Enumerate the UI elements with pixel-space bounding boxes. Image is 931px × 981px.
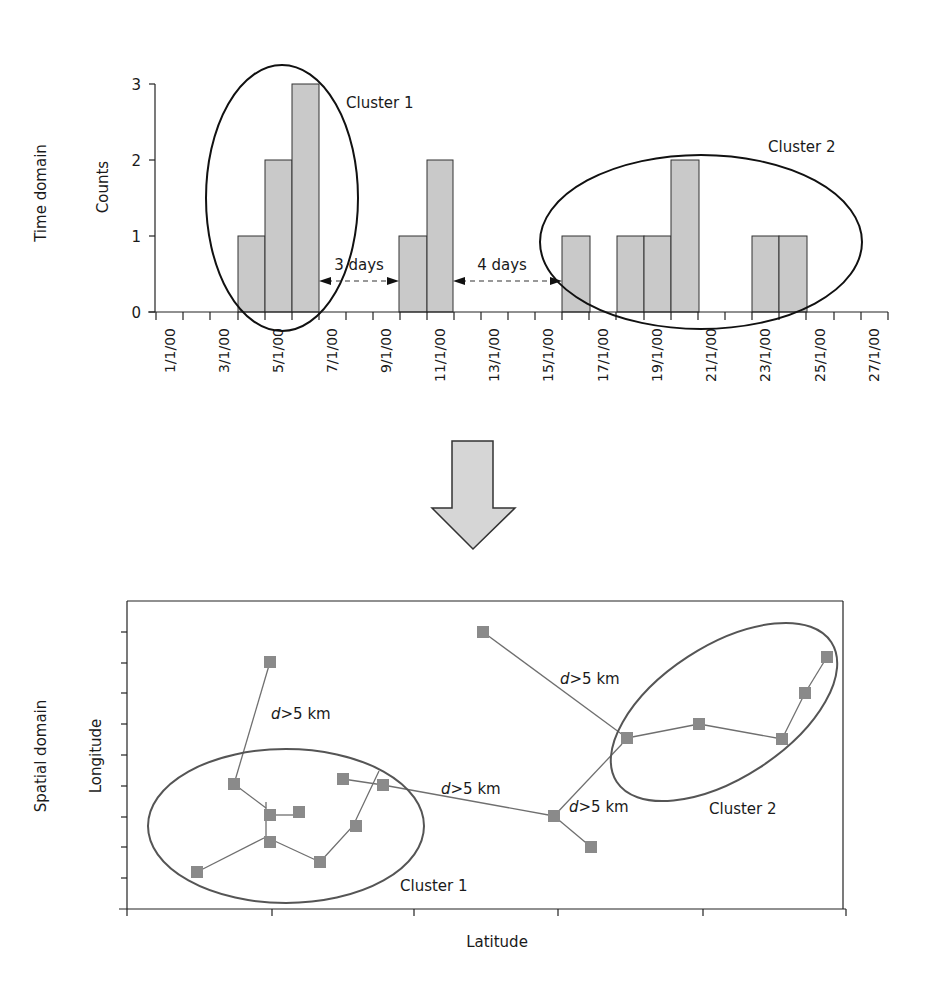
bar-10-1: [399, 236, 427, 312]
time-domain-label: Time domain: [32, 144, 50, 243]
distance-label: d>5 km: [441, 780, 501, 798]
counts-axis-label: Counts: [94, 161, 112, 214]
point-marker: [693, 718, 705, 730]
point-marker: [337, 773, 349, 785]
bar-6-1: [292, 84, 319, 312]
x-tick-label: 11/1/00: [432, 328, 448, 382]
point-marker: [776, 733, 788, 745]
distance-threshold: >5 km: [579, 798, 629, 816]
x-tick-label: 19/1/00: [649, 328, 665, 382]
x-axis-ticks: [127, 909, 846, 916]
y-axis: [149, 84, 155, 312]
arrowhead-left-icon: [319, 277, 331, 285]
point-marker: [799, 687, 811, 699]
x-tick-label: 23/1/00: [757, 328, 773, 382]
point-marker: [350, 820, 362, 832]
point-marker: [264, 809, 276, 821]
distance-threshold: >5 km: [570, 670, 620, 688]
point-marker: [821, 651, 833, 663]
cluster-2-label: Cluster 2: [709, 800, 777, 818]
bars: [238, 84, 807, 312]
gap-3-days-label: 3 days: [334, 256, 384, 274]
x-tick-label: 27/1/00: [866, 328, 882, 382]
connections: [197, 632, 827, 872]
x-tick-label: 13/1/00: [486, 328, 502, 382]
bar-16-1: [562, 236, 590, 312]
x-tick-label: 21/1/00: [703, 328, 719, 382]
y-tick-2: 2: [131, 152, 141, 170]
point-marker: [477, 626, 489, 638]
distance-symbol: d: [569, 798, 579, 816]
bar-19-1: [644, 236, 671, 312]
gap-4-days-label: 4 days: [477, 256, 527, 274]
distance-label: d>5 km: [569, 798, 629, 816]
spatial-domain-label: Spatial domain: [32, 700, 50, 813]
time-domain-chart: Time domain Counts 0 1 2 3: [32, 65, 888, 382]
spatial-domain-chart: Spatial domain Longitude Latitude: [32, 587, 867, 951]
distance-symbol: d: [560, 670, 570, 688]
figure-canvas: Time domain Counts 0 1 2 3: [0, 0, 931, 981]
distance-label: d>5 km: [271, 705, 331, 723]
cluster-1-label: Cluster 1: [400, 877, 468, 895]
x-tick-label: 9/1/00: [378, 328, 394, 373]
bar-4-1: [238, 236, 265, 312]
distance-symbol: d: [441, 780, 451, 798]
plot-frame: [119, 601, 846, 909]
point-marker: [293, 806, 305, 818]
gap-arrow-4-days: [453, 277, 562, 285]
distance-symbol: d: [271, 705, 281, 723]
point-marker: [585, 841, 597, 853]
point-marker: [377, 779, 389, 791]
point-marker: [621, 732, 633, 744]
cluster-2-label: Cluster 2: [768, 138, 836, 156]
y-tick-3: 3: [131, 76, 141, 94]
markers: [191, 626, 833, 878]
bar-5-1: [265, 160, 292, 312]
latitude-axis-label: Latitude: [466, 933, 528, 951]
point-marker: [191, 866, 203, 878]
point-marker: [228, 778, 240, 790]
longitude-axis-label: Longitude: [87, 719, 105, 794]
bar-20-1: [671, 160, 699, 312]
y-tick-1: 1: [131, 228, 141, 246]
gap-arrow-3-days: [319, 277, 399, 285]
bar-18-1: [617, 236, 644, 312]
x-tick-labels: 1/1/00 3/1/00 5/1/00 7/1/00 9/1/00 11/1/…: [162, 328, 882, 382]
y-tick-0: 0: [131, 304, 141, 322]
arrowhead-left-icon: [453, 277, 465, 285]
x-tick-label: 3/1/00: [216, 328, 232, 373]
x-tick-label: 5/1/00: [270, 328, 286, 373]
y-axis-ticks: [121, 632, 127, 878]
point-marker: [314, 856, 326, 868]
x-tick-label: 25/1/00: [812, 328, 828, 382]
arrowhead-right-icon: [387, 277, 399, 285]
bar-24-1: [779, 236, 807, 312]
distance-threshold: >5 km: [451, 780, 501, 798]
distance-label: d>5 km: [560, 670, 620, 688]
cluster-1-label: Cluster 1: [346, 94, 414, 112]
distance-threshold: >5 km: [281, 705, 331, 723]
point-marker: [548, 810, 560, 822]
down-arrow-icon: [432, 441, 515, 549]
x-tick-label: 7/1/00: [324, 328, 340, 373]
x-tick-label: 1/1/00: [162, 328, 178, 373]
bar-23-1: [752, 236, 779, 312]
x-tick-label: 17/1/00: [595, 328, 611, 382]
x-tick-label: 15/1/00: [540, 328, 556, 382]
cluster-1-ellipse: [148, 749, 424, 903]
bar-11-1: [427, 160, 453, 312]
point-marker: [264, 836, 276, 848]
point-marker: [264, 656, 276, 668]
